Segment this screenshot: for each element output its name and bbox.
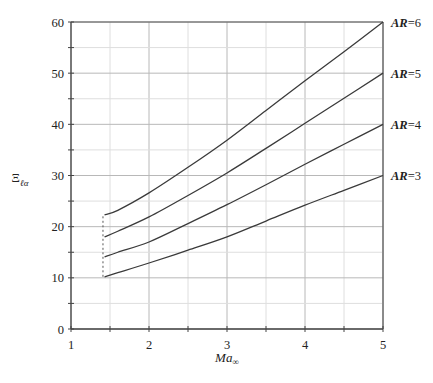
axes (68, 22, 383, 332)
series-label: AR=3 (390, 169, 421, 183)
y-tick-label: 10 (52, 271, 65, 285)
grid (71, 22, 383, 329)
series-lines (103, 22, 383, 277)
series-line (105, 22, 383, 215)
series-line (105, 124, 383, 257)
y-axis-title: Ξℓα (12, 170, 29, 188)
x-tick-label: 1 (68, 338, 74, 352)
x-tick-label: 2 (146, 338, 152, 352)
series-line (105, 73, 383, 237)
series-label: AR=5 (390, 67, 421, 81)
y-tick-label: 40 (52, 118, 65, 132)
series-label: AR=4 (390, 118, 422, 132)
x-axis-title: Ma∞ (214, 350, 239, 367)
series-label: AR=6 (390, 16, 421, 30)
y-tick-label: 60 (52, 16, 65, 30)
y-tick-label: 0 (58, 323, 64, 337)
series-line (105, 176, 383, 277)
x-tick-label: 5 (380, 338, 386, 352)
y-tick-label: 30 (52, 169, 65, 183)
y-tick-label: 20 (52, 220, 65, 234)
series-labels: AR=6AR=5AR=4AR=3 (390, 16, 422, 184)
x-tick-label: 4 (302, 338, 309, 352)
tick-labels: 123450102030405060 (52, 16, 387, 353)
chart: 123450102030405060 AR=6AR=5AR=4AR=3 Ma∞ … (0, 0, 433, 383)
y-tick-label: 50 (52, 67, 65, 81)
